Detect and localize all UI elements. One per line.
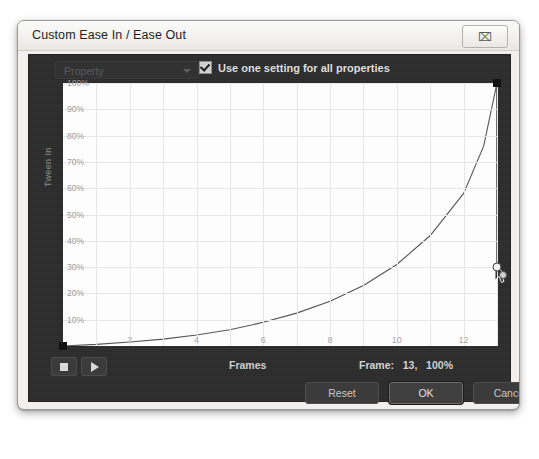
gridline-horizontal (63, 320, 497, 321)
y-tick-label: 70% (67, 157, 97, 167)
y-tick-label: 40% (67, 236, 97, 246)
gridline-vertical (197, 83, 198, 346)
stop-icon (60, 363, 68, 371)
x-axis-label: Frames (229, 359, 266, 371)
ok-button[interactable]: OK (389, 382, 463, 404)
gridline-vertical (497, 83, 498, 346)
start-point[interactable] (59, 342, 67, 350)
gridline-horizontal (63, 293, 497, 294)
gridline-vertical (363, 83, 364, 346)
x-tick-label: 6 (261, 335, 266, 345)
gridline-horizontal (63, 162, 497, 163)
gridline-vertical (263, 83, 264, 346)
property-dropdown-value: Property (64, 65, 104, 77)
gridline-vertical (297, 83, 298, 346)
gridline-horizontal (63, 215, 497, 216)
gridline-vertical (163, 83, 164, 346)
x-tick-label: 12 (459, 335, 469, 345)
gridline-vertical (130, 83, 131, 346)
property-dropdown[interactable]: Property (55, 61, 199, 79)
cancel-button[interactable]: Cancel (473, 382, 520, 404)
title-bar: Custom Ease In / Ease Out ⌧ (18, 21, 519, 51)
gridline-horizontal (63, 109, 497, 110)
x-tick-label: 10 (392, 335, 402, 345)
gridline-horizontal (63, 136, 497, 137)
y-tick-label: 50% (67, 210, 97, 220)
gridline-horizontal (63, 267, 497, 268)
gridline-horizontal (63, 241, 497, 242)
x-tick-label: 2 (127, 335, 132, 345)
y-tick-label: 60% (67, 183, 97, 193)
y-axis-label: Tween In (43, 147, 53, 187)
button-row: Reset OK Cancel (29, 382, 510, 404)
control-row: Property Use one setting for all propert… (29, 55, 510, 85)
stop-button[interactable] (51, 357, 77, 376)
use-one-setting-label: Use one setting for all properties (218, 62, 390, 74)
page-title: Custom Ease In / Ease Out (32, 28, 186, 42)
frame-readout: Frame: 13, 100% (359, 359, 453, 371)
gridline-vertical (230, 83, 231, 346)
y-tick-label: 10% (67, 315, 97, 325)
gridline-horizontal (63, 83, 497, 84)
transport-row: Frames Frame: 13, 100% (29, 355, 510, 379)
reset-button[interactable]: Reset (305, 382, 379, 404)
x-tick-label: 4 (194, 335, 199, 345)
custom-ease-dialog: Custom Ease In / Ease Out ⌧ Property Use… (17, 20, 520, 410)
use-one-setting-row[interactable]: Use one setting for all properties (199, 61, 390, 74)
y-tick-label: 80% (67, 131, 97, 141)
gridline-vertical (96, 83, 97, 346)
play-button[interactable] (81, 357, 107, 376)
play-icon (91, 362, 99, 372)
gridline-vertical (330, 83, 331, 346)
gridline-vertical (464, 83, 465, 346)
y-tick-label: 90% (67, 104, 97, 114)
y-tick-label: 100% (67, 78, 97, 88)
dialog-body: Property Use one setting for all propert… (28, 54, 511, 402)
gridline-vertical (430, 83, 431, 346)
close-icon: ⌧ (478, 31, 492, 43)
close-button[interactable]: ⌧ (462, 25, 508, 48)
x-tick-label: 8 (328, 335, 333, 345)
end-tangent-handle-outer[interactable] (499, 271, 507, 279)
use-one-setting-checkbox[interactable] (199, 61, 212, 74)
gridline-vertical (397, 83, 398, 346)
ease-curve-plot[interactable]: 10%20%30%40%50%60%70%80%90%100%24681012 (63, 83, 497, 346)
gridline-horizontal (63, 188, 497, 189)
graph-area: Tween In 10%20%30%40%50%60%70%80%90%100%… (47, 83, 497, 351)
chevron-down-icon (183, 69, 191, 73)
end-point[interactable] (493, 79, 501, 87)
y-tick-label: 30% (67, 262, 97, 272)
y-tick-label: 20% (67, 288, 97, 298)
end-tangent-handle[interactable] (493, 263, 502, 272)
